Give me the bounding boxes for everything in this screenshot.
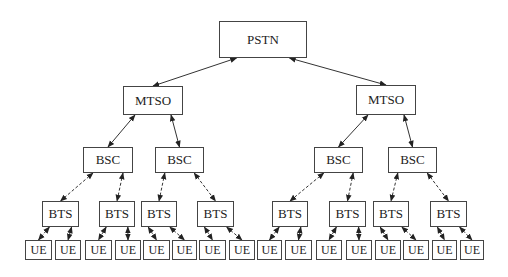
edge-bts5-ue10 [299,227,301,240]
node-label: UE [351,243,367,258]
node-ue1: UE [25,240,52,260]
edge-bsc4-bts8 [427,173,448,201]
node-label: UE [380,243,396,258]
node-label: PSTN [247,32,279,48]
node-label: UE [291,243,307,258]
node-label: UE [60,243,76,258]
node-bts3: BTS [141,201,177,227]
node-label: UE [262,243,278,258]
node-mtso2: MTSO [356,85,416,115]
node-ue16: UE [460,240,484,260]
node-label: BTS [379,206,403,222]
node-ue9: UE [257,240,282,260]
edge-mtso2-bsc4 [404,115,413,147]
node-label: UE [177,243,193,258]
node-ue2: UE [55,240,81,260]
node-bts7: BTS [373,201,409,227]
node-label: UE [464,243,480,258]
edge-bts2-ue3 [99,227,107,240]
node-label: UE [91,243,107,258]
edge-bts3-ue6 [170,227,185,240]
node-ue14: UE [403,240,429,260]
node-ue8: UE [229,240,255,260]
edge-mtso2-bsc3 [339,115,369,147]
edge-bsc3-bts5 [290,173,324,201]
node-bts5: BTS [272,201,308,227]
node-bsc3: BSC [314,147,363,173]
node-bts2: BTS [99,201,135,227]
edge-bts8-ue16 [460,227,472,240]
node-label: UE [408,243,424,258]
node-label: BTS [336,206,360,222]
edge-bsc2-bts3 [159,173,165,201]
node-label: BTS [204,206,228,222]
node-ue15: UE [432,240,457,260]
edge-bts6-ue11 [329,227,336,240]
node-ue7: UE [199,240,226,260]
node-bsc4: BSC [388,147,437,173]
node-label: UE [31,243,47,258]
edge-bts8-ue15 [437,227,444,240]
node-label: UE [120,243,136,258]
node-label: BSC [326,152,351,168]
node-bts8: BTS [430,201,467,227]
node-ue4: UE [115,240,141,260]
node-ue3: UE [85,240,112,260]
edge-bts4-ue8 [227,227,242,240]
edge-bts1-ue2 [68,227,72,240]
node-label: BTS [437,206,461,222]
edge-bsc1-bts1 [61,173,94,201]
edge-bts7-ue14 [402,227,416,240]
node-label: BSC [96,152,121,168]
node-label: MTSO [368,92,404,108]
edge-pstn-mtso1 [153,58,237,86]
node-label: UE [321,243,337,258]
edge-bsc4-bts7 [391,173,398,201]
node-ue12: UE [346,240,372,260]
node-label: UE [149,243,165,258]
node-label: BSC [400,152,425,168]
edge-bts7-ue13 [380,227,388,240]
edge-pstn-mtso2 [289,58,386,85]
node-label: BTS [105,206,129,222]
node-label: MTSO [135,93,171,109]
edge-bts1-ue1 [39,227,50,240]
edge-bts5-ue9 [270,227,280,240]
node-ue13: UE [375,240,401,260]
node-ue6: UE [172,240,197,260]
edge-bsc2-bts4 [194,173,215,201]
node-label: UE [205,243,221,258]
node-label: UE [234,243,250,258]
node-label: BTS [49,206,73,222]
edge-bsc1-bts2 [117,173,123,201]
node-bts4: BTS [197,201,234,227]
edge-mtso1-bsc2 [171,115,180,147]
node-pstn: PSTN [219,21,307,58]
edge-bts3-ue5 [148,227,156,240]
node-bsc1: BSC [83,147,133,173]
node-bts6: BTS [329,201,366,227]
edge-bsc3-bts6 [348,173,354,201]
edge-mtso1-bsc1 [108,115,135,147]
edge-bts4-ue7 [204,227,212,240]
node-ue11: UE [316,240,342,260]
node-ue10: UE [285,240,312,260]
node-label: UE [437,243,453,258]
node-bts1: BTS [42,201,79,227]
node-label: BTS [147,206,171,222]
node-mtso1: MTSO [123,86,183,115]
node-bsc2: BSC [155,147,204,173]
node-label: BTS [278,206,302,222]
node-ue5: UE [143,240,170,260]
node-label: BSC [167,152,192,168]
